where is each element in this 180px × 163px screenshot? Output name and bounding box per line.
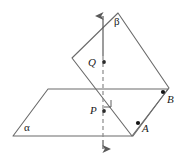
geometry-figure: α β P Q A B	[0, 0, 180, 163]
point-A-dot	[136, 121, 140, 125]
label-point-p: P	[90, 105, 97, 116]
label-point-b: B	[167, 94, 174, 105]
geometry-diagram-canvas	[0, 0, 180, 163]
point-Q-dot	[102, 60, 106, 64]
label-plane-alpha: α	[24, 122, 30, 133]
label-plane-beta: β	[114, 16, 120, 27]
plane-beta-outline	[72, 13, 169, 136]
point-B-dot	[161, 90, 165, 94]
label-point-a: A	[142, 123, 149, 134]
point-P-dot	[102, 109, 106, 113]
label-point-q: Q	[88, 57, 96, 68]
